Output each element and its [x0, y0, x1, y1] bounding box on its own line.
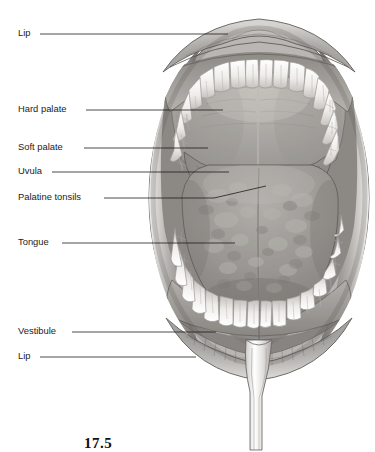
figure-caption-clip: 17.5	[0, 436, 375, 452]
figure-caption: 17.5	[84, 436, 112, 451]
label-tongue: Tongue	[18, 236, 49, 247]
label-lip-lower: Lip	[18, 350, 31, 361]
oral-cavity-interior	[153, 28, 365, 364]
callout-lip-upper: Lip	[18, 27, 228, 38]
callout-lip-lower: Lip	[18, 350, 196, 361]
label-soft-palate: Soft palate	[18, 141, 63, 152]
label-hard-palate: Hard palate	[18, 103, 66, 114]
label-uvula: Uvula	[18, 165, 43, 176]
label-palatine-tonsils: Palatine tonsils	[18, 191, 81, 202]
tongue-depressor-instrument	[246, 340, 273, 450]
label-vestibule: Vestibule	[18, 325, 56, 336]
anatomy-illustration: Lip Hard palate Soft palate Uvula Palati…	[0, 0, 375, 452]
figure-oral-cavity: Lip Hard palate Soft palate Uvula Palati…	[0, 0, 375, 452]
oral-region-illustration	[149, 19, 369, 450]
label-lip-upper: Lip	[18, 27, 31, 38]
